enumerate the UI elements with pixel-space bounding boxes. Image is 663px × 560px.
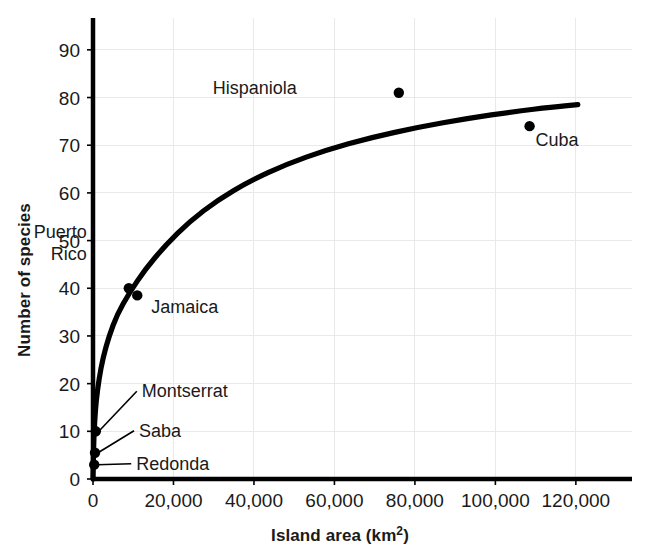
y-tick-label: 60 <box>59 183 80 204</box>
x-tick-label: 0 <box>88 490 99 511</box>
y-tick-label: 80 <box>59 88 80 109</box>
point-label-saba: Saba <box>139 421 182 441</box>
data-point-puerto-rico <box>124 283 134 293</box>
y-tick-label: 30 <box>59 326 80 347</box>
chart-background <box>0 0 663 560</box>
x-tick-label: 40,000 <box>225 490 283 511</box>
chart-canvas: 020,00040,00060,00080,000100,000120,000 … <box>0 0 663 560</box>
x-tick-label: 20,000 <box>144 490 202 511</box>
data-point-cuba <box>524 121 534 131</box>
x-tick-label: 100,000 <box>461 490 530 511</box>
y-axis-title: Number of species <box>15 203 34 357</box>
point-label-redonda: Redonda <box>136 454 210 474</box>
x-axis-title-close: ) <box>403 526 409 545</box>
puerto-rico-label-line1: Puerto <box>34 222 87 242</box>
data-point-hispaniola <box>394 88 404 98</box>
x-axis-title-base: Island area (km <box>271 526 396 545</box>
point-label-cuba: Cuba <box>536 130 580 150</box>
point-label-hispaniola: Hispaniola <box>213 78 298 98</box>
y-tick-label: 90 <box>59 40 80 61</box>
species-area-chart: 020,00040,00060,00080,000100,000120,000 … <box>0 0 663 560</box>
point-label-montserrat: Montserrat <box>142 381 228 401</box>
point-label-jamaica: Jamaica <box>151 297 219 317</box>
y-tick-label: 20 <box>59 374 80 395</box>
data-point-jamaica <box>132 290 142 300</box>
leader-line-redonda <box>97 464 131 465</box>
x-axis-title: Island area (km2) <box>271 524 409 545</box>
y-tick-label: 70 <box>59 135 80 156</box>
x-tick-label: 60,000 <box>305 490 363 511</box>
y-tick-label: 40 <box>59 278 80 299</box>
y-tick-label: 0 <box>69 469 80 490</box>
puerto-rico-label-line2: Rico <box>51 244 87 264</box>
x-tick-label: 120,000 <box>542 490 611 511</box>
y-tick-label: 10 <box>59 421 80 442</box>
x-tick-label: 80,000 <box>386 490 444 511</box>
